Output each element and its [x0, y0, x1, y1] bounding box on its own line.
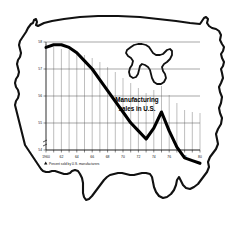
x-tick-label: 70 [121, 155, 125, 159]
y-tick-label: 57 [38, 67, 42, 71]
annotation-line-2: sales in U.S. [118, 105, 155, 112]
y-tick-label: 55 [38, 121, 42, 125]
chart-footnote: Percent sold by U.S. manufacturers [44, 161, 100, 165]
x-tick-label: 68 [106, 155, 110, 159]
annotation-line-1: Manufacturing [115, 96, 159, 104]
x-tick-marks [46, 150, 200, 153]
x-tick-label: 80 [198, 155, 202, 159]
y-tick-label: 58 [38, 40, 42, 44]
x-tick-label: 74 [152, 155, 156, 159]
x-tick-label: 64 [75, 155, 79, 159]
chart-annotation: Manufacturing sales in U.S. [115, 96, 159, 112]
x-tick-label: 62 [60, 155, 64, 159]
infographic-root: 58 57 56 55 54 1960 62 64 66 68 70 72 74… [0, 0, 250, 229]
x-tick-label: 76 [167, 155, 171, 159]
y-tick-label: 56 [38, 94, 42, 98]
y-tick-label: 54 [38, 148, 42, 152]
x-tick-label: 1960 [42, 155, 50, 159]
footnote-text: Percent sold by U.S. manufacturers [49, 162, 100, 166]
x-tick-label: 72 [137, 155, 141, 159]
x-tick-label: 66 [90, 155, 94, 159]
